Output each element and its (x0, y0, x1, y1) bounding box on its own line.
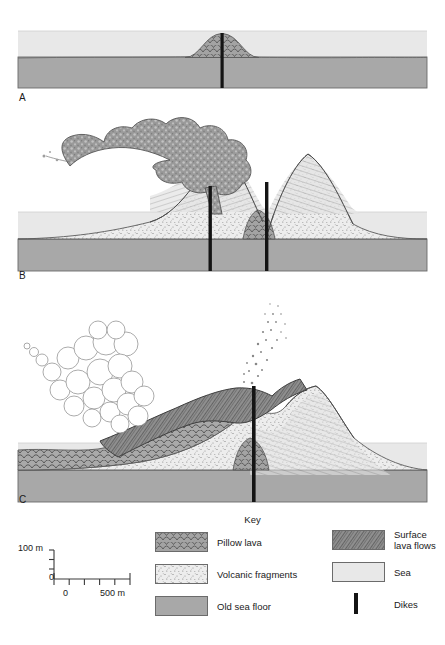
legend-column-left: Pillow lava Volcanic fragments Old sea f… (155, 532, 297, 628)
panel-a-dike (221, 33, 224, 88)
panel-a-cross-section (18, 31, 427, 88)
legend-label-pillow-lava: Pillow lava (217, 537, 262, 548)
legend-column-right: Surface lava flows Sea Dikes (332, 530, 436, 626)
legend-item-dikes: Dikes (332, 594, 436, 614)
key-legend: Key Pillow lava Volcanic fragments Old s… (0, 512, 445, 632)
old-sea-floor-swatch (155, 596, 208, 616)
pillow-lava-swatch (155, 532, 208, 552)
panel-b-old-sea-floor (18, 239, 427, 271)
legend-label-sea: Sea (394, 567, 411, 578)
legend-item-pillow-lava: Pillow lava (155, 532, 297, 552)
legend-item-surface-lava-flows: Surface lava flows (332, 530, 436, 550)
panel-c-dike (252, 386, 256, 502)
legend-label-volcanic-fragments: Volcanic fragments (217, 569, 297, 580)
panel-b-cross-section (18, 118, 427, 271)
dikes-swatch (332, 594, 385, 614)
panel-b-dike-right (265, 182, 268, 271)
sea-swatch (332, 562, 385, 582)
legend-label-surface-lava-flows: Surface lava flows (394, 529, 436, 551)
panel-label-a: A (19, 92, 26, 103)
panel-c-steam-plume (24, 321, 154, 433)
panel-label-c: C (19, 494, 26, 505)
panel-label-b: B (19, 270, 26, 281)
panel-b-dike-left (209, 186, 212, 271)
legend-item-old-sea-floor: Old sea floor (155, 596, 297, 616)
legend-item-volcanic-fragments: Volcanic fragments (155, 564, 297, 584)
panel-c-ash-jet (243, 303, 287, 391)
panel-c-cross-section (18, 303, 430, 502)
legend-label-dikes: Dikes (394, 599, 418, 610)
key-title: Key (0, 514, 445, 525)
legend-label-old-sea-floor: Old sea floor (217, 601, 271, 612)
volcanic-fragments-swatch (155, 564, 208, 584)
volcano-formation-figure: A B C 100 m 0 0 500 m Key (0, 0, 445, 645)
surface-lava-flows-swatch (332, 530, 385, 550)
legend-item-sea: Sea (332, 562, 436, 582)
